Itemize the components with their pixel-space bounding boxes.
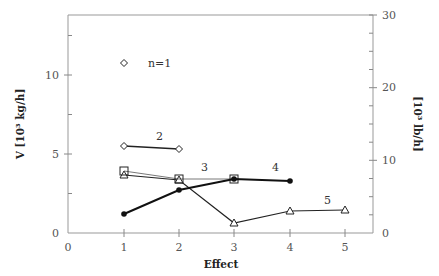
svg-text:0: 0 (52, 227, 59, 240)
svg-text:0: 0 (65, 241, 72, 254)
y-axis-title-left: V [10³ kg/h] (14, 89, 26, 161)
label-n1: n=1 (148, 57, 171, 70)
y-tick-labels-left: 0 5 10 (45, 69, 59, 240)
svg-text:0: 0 (382, 227, 389, 240)
series-1 (121, 60, 128, 67)
svg-text:3: 3 (231, 241, 238, 254)
label-series-4: 4 (272, 161, 279, 174)
svg-text:5: 5 (52, 148, 59, 161)
y-axis-title-right: [10³ lb/h] (412, 96, 424, 152)
series-4 (121, 176, 293, 217)
label-series-3: 3 (201, 161, 208, 174)
x-axis-title: Effect (204, 258, 239, 270)
svg-text:10: 10 (382, 154, 396, 167)
svg-text:1: 1 (121, 241, 128, 254)
x-tick-labels: 0 1 2 3 4 5 (65, 241, 349, 254)
svg-text:5: 5 (342, 241, 349, 254)
chart-canvas: 0 1 2 3 4 5 0 5 10 0 10 20 30 Effect V [… (0, 0, 439, 276)
y-tick-labels-right: 0 10 20 30 (382, 9, 396, 240)
svg-text:4: 4 (287, 241, 294, 254)
label-series-5: 5 (324, 194, 331, 207)
series-2 (121, 143, 183, 153)
svg-text:10: 10 (45, 69, 59, 82)
svg-text:30: 30 (382, 9, 396, 22)
svg-text:20: 20 (382, 81, 396, 94)
svg-text:2: 2 (176, 241, 183, 254)
label-series-2: 2 (156, 130, 163, 143)
